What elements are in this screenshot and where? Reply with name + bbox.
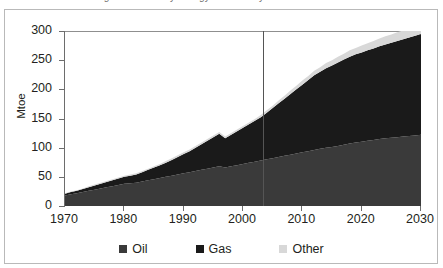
- x-tick: [361, 206, 362, 211]
- chart-legend: OilGasOther: [0, 243, 443, 256]
- x-tick: [183, 206, 184, 211]
- legend-label: Other: [292, 243, 323, 256]
- x-tick-label: 1980: [93, 212, 153, 226]
- x-tick-label: 1970: [34, 212, 94, 226]
- x-tick-label: 2030: [390, 212, 443, 226]
- stacked-area-series: [65, 31, 421, 206]
- legend-swatch-icon: [119, 245, 127, 253]
- y-tick: [59, 60, 65, 61]
- y-tick: [59, 206, 65, 207]
- y-tick: [59, 177, 65, 178]
- y-tick: [59, 89, 65, 90]
- x-tick-label: 1990: [153, 212, 213, 226]
- chart-title-cropped: Figure 3: Primary energy demand by fuel: [0, 0, 443, 9]
- y-tick-label: 300: [0, 24, 52, 37]
- x-tick: [301, 206, 302, 211]
- history-projection-divider: [263, 31, 264, 206]
- y-tick-label: 100: [0, 141, 52, 154]
- y-tick-label: 150: [0, 112, 52, 125]
- y-tick: [59, 119, 65, 120]
- y-tick-label: 250: [0, 53, 52, 66]
- x-tick-label: 2000: [212, 212, 272, 226]
- x-tick: [242, 206, 243, 211]
- x-tick-label: 2020: [331, 212, 391, 226]
- legend-swatch-icon: [196, 245, 204, 253]
- legend-item-oil: Oil: [119, 243, 147, 256]
- x-tick-label: 2010: [271, 212, 331, 226]
- energy-demand-area-chart: Figure 3: Primary energy demand by fuel …: [0, 0, 443, 268]
- y-tick: [59, 31, 65, 32]
- legend-item-gas: Gas: [196, 243, 232, 256]
- chart-title-text: Figure 3: Primary energy demand by fuel: [95, 0, 284, 2]
- x-tick: [420, 206, 421, 211]
- y-tick-label: 50: [0, 170, 52, 183]
- legend-label: Oil: [132, 243, 147, 256]
- y-tick-label: 200: [0, 82, 52, 95]
- y-tick-label: 0: [0, 199, 52, 212]
- legend-label: Gas: [209, 243, 232, 256]
- plot-area: [64, 31, 420, 206]
- y-tick: [59, 148, 65, 149]
- legend-swatch-icon: [279, 245, 287, 253]
- x-tick: [123, 206, 124, 211]
- legend-item-other: Other: [279, 243, 323, 256]
